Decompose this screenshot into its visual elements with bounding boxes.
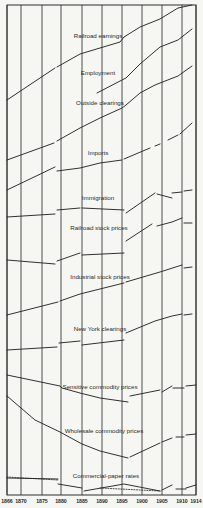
plot-frame	[7, 5, 196, 495]
series-segment	[157, 194, 172, 198]
vertical-gridlines	[7, 5, 196, 495]
series-segment	[57, 208, 80, 210]
series-segment	[7, 478, 58, 479]
x-tick-label: 1905	[156, 498, 168, 504]
series-segment	[168, 135, 178, 140]
series-label: New York clearings	[74, 325, 127, 332]
series-segment	[126, 265, 182, 282]
series-segment	[184, 267, 192, 268]
series-segment	[130, 443, 160, 457]
series-label: Imports	[88, 149, 109, 156]
x-tick-label: 1870	[15, 498, 27, 504]
x-tick-label: 1866	[1, 498, 13, 504]
series-segment	[60, 283, 124, 301]
x-tick-label: 1900	[136, 498, 148, 504]
business-indicators-chart: Railroad earningsEmploymentOutside clear…	[0, 0, 203, 508]
series-segment	[162, 485, 172, 490]
x-tick-label: 1890	[96, 498, 108, 504]
series-segment	[7, 347, 57, 350]
x-tick-label: 1914	[190, 498, 202, 504]
series-segment	[126, 224, 152, 241]
series-label: Railroad stock prices	[70, 224, 127, 231]
series-segment	[186, 434, 196, 435]
series-segment	[157, 218, 182, 226]
series-segment	[126, 193, 155, 213]
series-label: Employment	[81, 69, 116, 76]
series-segment	[155, 144, 160, 146]
x-tick-label: 1910	[176, 498, 188, 504]
series-segment	[186, 485, 196, 488]
series-segment	[82, 208, 124, 210]
series-segment	[7, 302, 58, 315]
series-segment	[172, 192, 182, 193]
series-segment	[7, 143, 54, 160]
series-segment	[162, 386, 172, 392]
series-segment	[57, 160, 122, 171]
series-segment	[184, 190, 192, 191]
series-label: Industrial stock prices	[70, 273, 130, 280]
series-lines	[7, 5, 196, 491]
series-labels: Railroad earningsEmploymentOutside clear…	[63, 32, 144, 480]
series-outside-clearings	[7, 66, 192, 160]
x-axis-tick-labels: 1866187018751880188518901895190019051910…	[1, 498, 202, 504]
series-segment	[162, 438, 172, 442]
series-label: Outside clearings	[76, 99, 124, 106]
series-label: Immigration	[82, 194, 115, 201]
series-segment	[124, 148, 150, 159]
series-label: Wholesale commodity prices	[65, 427, 144, 434]
series-segment	[82, 253, 124, 255]
x-tick-label: 1885	[76, 498, 88, 504]
series-segment	[58, 484, 82, 488]
series-segment	[7, 214, 55, 217]
series-segment	[130, 390, 160, 396]
series-segment	[7, 167, 55, 190]
series-segment	[59, 341, 80, 343]
x-tick-label: 1895	[116, 498, 128, 504]
series-label: Railroad earnings	[74, 32, 123, 39]
series-label: Sensitive commodity prices	[63, 383, 138, 390]
series-label: Commercial-paper rates	[73, 472, 139, 479]
series-segment	[82, 340, 124, 345]
series-segment	[126, 314, 182, 333]
x-tick-label: 1875	[36, 498, 48, 504]
series-segment	[7, 68, 55, 100]
series-segment	[186, 385, 196, 386]
series-segment	[57, 253, 80, 261]
series-segment	[184, 314, 192, 315]
x-tick-label: 1880	[55, 498, 67, 504]
series-segment	[7, 260, 55, 264]
series-railroad-earnings	[7, 5, 192, 100]
